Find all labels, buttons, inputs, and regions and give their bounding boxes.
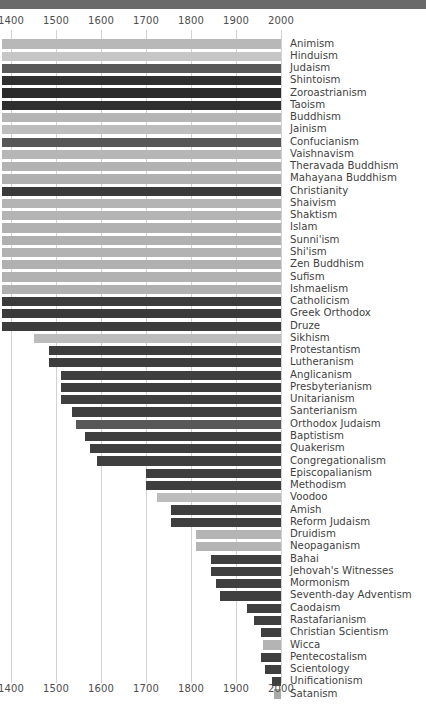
chart-row: Druidism — [0, 529, 426, 541]
chart-row: Amish — [0, 504, 426, 516]
religion-label: Jehovah's Witnesses — [290, 565, 394, 578]
timeline-bar — [85, 432, 281, 441]
chart-row: Episcopalianism — [0, 467, 426, 479]
religion-label: Christian Scientism — [290, 626, 388, 639]
chart-row: Quakerism — [0, 443, 426, 455]
timeline-bar — [2, 223, 281, 232]
x-tick-label: 1800 — [178, 683, 204, 694]
timeline-bar — [2, 199, 281, 208]
religion-label: Zen Buddhism — [290, 258, 364, 271]
chart-row: Congregationalism — [0, 455, 426, 467]
religion-label: Druze — [290, 320, 320, 333]
chart-row: Taoism — [0, 99, 426, 111]
x-axis-labels-top: 1400150016001700180019002000 — [0, 15, 426, 29]
chart-row: Pentecostalism — [0, 651, 426, 663]
header-band — [0, 0, 426, 9]
chart-row: Shi'ism — [0, 247, 426, 259]
chart-row: Presbyterianism — [0, 381, 426, 393]
timeline-bar — [90, 444, 281, 453]
chart-row: Baptistism — [0, 431, 426, 443]
chart-row: Shaktism — [0, 210, 426, 222]
timeline-bar — [146, 481, 281, 490]
timeline-bar — [2, 76, 281, 85]
religion-label: Sufism — [290, 271, 325, 284]
chart-row: Orthodox Judaism — [0, 418, 426, 430]
religion-label: Santerianism — [290, 405, 357, 418]
timeline-bar — [261, 653, 281, 662]
timeline-bar — [2, 52, 281, 61]
timeline-bar — [211, 555, 281, 564]
religion-label: Sikhism — [290, 332, 330, 345]
religion-label: Sunni'ism — [290, 234, 340, 247]
religion-label: Unitarianism — [290, 393, 355, 406]
x-tick-label: 1700 — [133, 683, 159, 694]
religion-label: Mahayana Buddhism — [290, 172, 397, 185]
bar-rows-container: AnimismHinduismJudaismShintoismZoroastri… — [0, 38, 426, 700]
chart-row: Theravada Buddhism — [0, 161, 426, 173]
chart-row: Mahayana Buddhism — [0, 173, 426, 185]
x-tick-label: 1900 — [223, 15, 249, 26]
religion-label: Ishmaelism — [290, 283, 348, 296]
religion-label: Wicca — [290, 639, 320, 652]
chart-row: Jehovah's Witnesses — [0, 565, 426, 577]
chart-row: Catholicism — [0, 296, 426, 308]
timeline-bar — [2, 309, 281, 318]
x-tick-label: 1800 — [178, 15, 204, 26]
chart-row: Bahai — [0, 553, 426, 565]
chart-row: Vaishnavism — [0, 148, 426, 160]
religion-label: Shaktism — [290, 209, 337, 222]
chart-row: Judaism — [0, 63, 426, 75]
timeline-bar — [2, 101, 281, 110]
timeline-bar — [2, 125, 281, 134]
timeline-bar — [261, 628, 281, 637]
timeline-bar — [263, 640, 281, 649]
timeline-bar — [2, 322, 281, 331]
timeline-bar — [2, 113, 281, 122]
religion-label: Judaism — [290, 62, 330, 75]
religion-label: Christianity — [290, 185, 348, 198]
chart-row: Reform Judaism — [0, 516, 426, 528]
chart-row: Scientology — [0, 664, 426, 676]
chart-row: Ishmaelism — [0, 283, 426, 295]
timeline-bar — [2, 174, 281, 183]
chart-row: Animism — [0, 38, 426, 50]
timeline-bar — [2, 272, 281, 281]
religion-label: Shintoism — [290, 74, 341, 87]
timeline-bar — [61, 371, 282, 380]
religion-label: Animism — [290, 38, 334, 51]
x-tick-label: 1900 — [223, 683, 249, 694]
timeline-bar — [97, 456, 282, 465]
timeline-bar — [265, 665, 281, 674]
timeline-bar — [254, 616, 281, 625]
religion-label: Presbyterianism — [290, 381, 372, 394]
timeline-bar — [2, 297, 281, 306]
chart-row: Druze — [0, 320, 426, 332]
religion-label: Baptistism — [290, 430, 344, 443]
religion-label: Rastafarianism — [290, 614, 366, 627]
chart-row: Mormonism — [0, 578, 426, 590]
chart-row: Christian Scientism — [0, 627, 426, 639]
chart-row: Greek Orthodox — [0, 308, 426, 320]
timeline-bar — [2, 150, 281, 159]
x-tick-label: 2000 — [268, 683, 294, 694]
religion-label: Caodaism — [290, 602, 340, 615]
timeline-bar — [61, 395, 282, 404]
chart-row: Jainism — [0, 124, 426, 136]
religion-label: Druidism — [290, 528, 336, 541]
x-tick-label: 1400 — [0, 15, 24, 26]
religion-label: Zoroastrianism — [290, 87, 367, 100]
religion-label: Orthodox Judaism — [290, 418, 381, 431]
chart-row: Caodaism — [0, 602, 426, 614]
x-tick-label: 1600 — [88, 683, 114, 694]
religion-label: Shi'ism — [290, 246, 327, 259]
chart-row: Shaivism — [0, 197, 426, 209]
x-tick-label: 1600 — [88, 15, 114, 26]
chart-row: Unitarianism — [0, 394, 426, 406]
chart-row: Confucianism — [0, 136, 426, 148]
timeline-bar — [146, 469, 281, 478]
timeline-bar — [220, 591, 281, 600]
religion-label: Voodoo — [290, 491, 328, 504]
x-tick-label: 1400 — [0, 683, 24, 694]
timeline-bar — [61, 383, 282, 392]
religion-label: Anglicanism — [290, 369, 352, 382]
